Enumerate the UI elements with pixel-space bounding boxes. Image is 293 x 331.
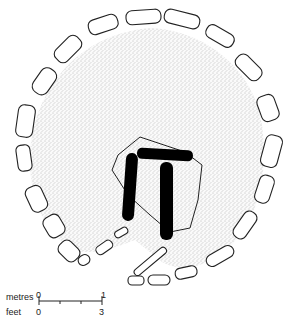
- metres-start: 0: [36, 290, 41, 300]
- scale-bar: [39, 296, 102, 305]
- feet-end: 3: [99, 307, 104, 317]
- stone-circle-plan: [0, 0, 293, 331]
- stippled-interior: [30, 28, 264, 268]
- feet-label: feet: [6, 307, 21, 317]
- metres-label: metres: [6, 292, 34, 302]
- feet-start: 0: [36, 307, 41, 317]
- metres-end: 1: [101, 290, 106, 300]
